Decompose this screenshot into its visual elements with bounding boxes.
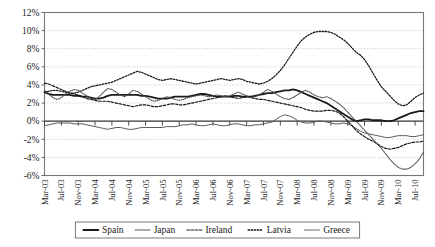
x-axis-tick-label: Jul-04	[107, 179, 117, 201]
y-axis-tick-label: -4%	[24, 153, 40, 163]
x-axis-tick-label: Nov-05	[174, 180, 184, 206]
series-line-japan	[45, 115, 424, 138]
x-axis-tick-label: Nov-08	[326, 180, 336, 206]
legend: SpainJapanIrelandLatviaGreece	[75, 222, 359, 238]
legend-label-spain: Spain	[102, 225, 124, 235]
x-axis-tick-label: Nov-04	[124, 179, 134, 206]
x-axis-tick-label: Jul-09	[360, 180, 370, 201]
x-axis-tick-label: Mar-03	[40, 180, 50, 206]
x-axis-tick-label: Mar-07	[242, 179, 252, 205]
legend-label-latvia: Latvia	[267, 225, 292, 235]
x-axis-tick-label: Jul-10	[410, 180, 420, 201]
legend-label-ireland: Ireland	[205, 225, 232, 235]
x-axis-tick-label: Jul-08	[309, 180, 319, 201]
x-axis-tick-label: Mar-09	[343, 180, 353, 206]
legend-label-japan: Japan	[154, 225, 176, 235]
x-axis-tick-label: Jul-07	[259, 179, 269, 201]
legend-label-greece: Greece	[323, 225, 350, 235]
x-axis-tick-label: Jul-03	[56, 180, 66, 201]
y-axis-tick-label: 8%	[27, 44, 40, 54]
x-axis-tick-label: Mar-04	[90, 179, 100, 205]
y-axis-tick-label: 12%	[22, 8, 40, 18]
x-axis-tick-label: Nov-06	[225, 179, 235, 206]
series-group	[45, 32, 424, 170]
y-axis-tick-label: -6%	[24, 171, 40, 181]
chart-container: 12%10%8%6%4%2%0%-2%-4%-6%Mar-03Jul-03Nov…	[0, 0, 435, 247]
y-axis-tick-label: 6%	[27, 62, 40, 72]
x-axis-tick-label: Jul-05	[158, 180, 168, 201]
x-axis-tick-label: Nov-03	[73, 180, 83, 206]
y-axis-tick-label: 2%	[27, 98, 40, 108]
line-chart: 12%10%8%6%4%2%0%-2%-4%-6%Mar-03Jul-03Nov…	[0, 0, 435, 247]
x-axis-tick-label: Mar-05	[141, 180, 151, 206]
y-axis-tick-label: 4%	[27, 80, 40, 90]
y-axis-tick-label: -2%	[24, 135, 40, 145]
y-axis-tick-label: 10%	[22, 26, 40, 36]
x-axis-tick-label: Mar-06	[191, 179, 201, 205]
x-axis-tick-label: Jul-06	[208, 179, 218, 201]
y-axis: 12%10%8%6%4%2%0%-2%-4%-6%	[22, 8, 44, 181]
x-axis: Mar-03Jul-03Nov-03Mar-04Jul-04Nov-04Mar-…	[40, 179, 421, 206]
x-axis-tick-label: Mar-08	[292, 180, 302, 206]
x-axis-tick-label: Nov-07	[275, 179, 285, 206]
x-axis-tick-label: Nov-09	[376, 180, 386, 206]
y-axis-tick-label: 0%	[27, 116, 40, 126]
x-axis-tick-label: Mar-10	[393, 180, 403, 206]
